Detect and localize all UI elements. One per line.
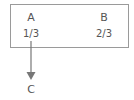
node-label-c: C [24,84,38,96]
arrowhead-icon [27,72,36,80]
arrow-a-to-c-icon [0,0,134,100]
